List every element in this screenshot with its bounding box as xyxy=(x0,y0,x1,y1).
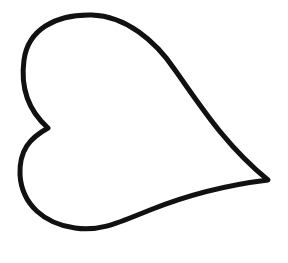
heart-drawing xyxy=(0,0,288,263)
heart-outline-icon xyxy=(20,15,268,229)
drawing-canvas xyxy=(0,0,288,263)
